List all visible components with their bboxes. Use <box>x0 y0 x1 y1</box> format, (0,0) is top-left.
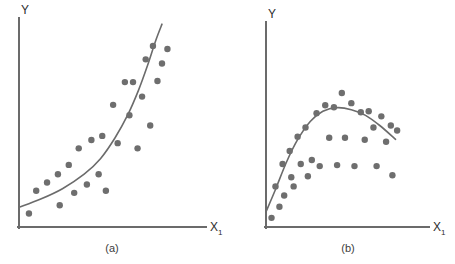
data-point <box>143 56 149 62</box>
figure-two-panel-scatterplots: Y X 1 (a) Y X 1 (b) <box>0 0 455 264</box>
data-point <box>313 110 319 116</box>
data-point <box>99 133 105 139</box>
data-point <box>71 190 77 196</box>
data-point <box>317 163 323 169</box>
data-point <box>33 188 39 194</box>
panel-b-caption: (b) <box>341 242 354 254</box>
data-point <box>268 215 274 221</box>
data-point <box>294 133 300 139</box>
data-point <box>95 171 101 177</box>
data-point <box>339 90 345 96</box>
panel-b-y-axis-label: Y <box>268 7 276 21</box>
data-point <box>154 78 160 84</box>
panel-a-x-axis-label-subscript: 1 <box>218 228 223 237</box>
panel-b-x-axis-label-base: X <box>433 220 441 234</box>
data-point <box>122 79 128 85</box>
data-point <box>287 148 293 154</box>
data-point <box>130 79 136 85</box>
data-point <box>351 163 357 169</box>
data-point <box>272 183 278 189</box>
data-point <box>279 161 285 167</box>
data-point <box>326 134 332 140</box>
data-point <box>298 161 304 167</box>
data-point <box>362 137 368 143</box>
data-point <box>373 163 379 169</box>
data-point <box>57 202 63 208</box>
data-point <box>114 140 120 146</box>
data-point <box>44 179 50 185</box>
panel-a-caption: (a) <box>105 242 118 254</box>
data-point <box>76 145 82 151</box>
data-point <box>84 181 90 187</box>
data-point <box>110 102 116 108</box>
data-point <box>150 43 156 49</box>
data-point <box>66 162 72 168</box>
data-point <box>139 93 145 99</box>
data-point <box>309 157 315 163</box>
data-point <box>159 60 165 66</box>
data-point <box>334 162 340 168</box>
data-point <box>366 108 372 114</box>
data-point <box>88 137 94 143</box>
data-point <box>281 192 287 198</box>
data-point <box>55 171 61 177</box>
data-point <box>342 134 348 140</box>
data-point <box>288 174 294 180</box>
data-point <box>322 102 328 108</box>
data-point <box>26 210 32 216</box>
data-point <box>305 173 311 179</box>
data-point <box>348 100 354 106</box>
data-point <box>276 204 282 210</box>
data-point <box>389 172 395 178</box>
data-point <box>126 112 132 118</box>
data-point <box>378 113 384 119</box>
data-point <box>147 122 153 128</box>
data-point <box>164 46 170 52</box>
data-point <box>388 122 394 128</box>
panel-a-y-axis-label: Y <box>21 3 29 17</box>
data-point <box>290 183 296 189</box>
data-point <box>302 124 308 130</box>
data-point <box>383 139 389 145</box>
data-point <box>394 127 400 133</box>
data-point <box>134 145 140 151</box>
panel-a-x-axis-label-base: X <box>210 220 218 234</box>
data-point <box>103 188 109 194</box>
panel-b-x-axis-label-subscript: 1 <box>441 228 446 237</box>
data-point <box>370 124 376 130</box>
data-point <box>331 104 337 110</box>
data-point <box>358 109 364 115</box>
